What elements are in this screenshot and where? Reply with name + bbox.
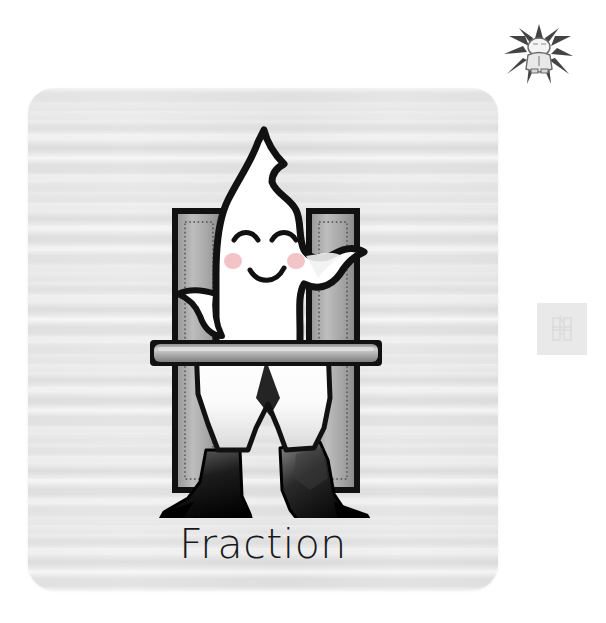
- character-left-boot: [154, 450, 254, 518]
- letter-h-crossbar: [150, 340, 382, 366]
- character-tab-icon[interactable]: [537, 303, 587, 355]
- card-caption: Fraction: [28, 520, 498, 568]
- flashcard[interactable]: Fraction: [28, 88, 498, 590]
- starburst-mascot-icon[interactable]: [503, 22, 575, 86]
- blush-left: [224, 253, 242, 269]
- blush-right: [287, 253, 305, 269]
- character-illustration: [28, 98, 498, 518]
- mascot-figure: [526, 38, 552, 73]
